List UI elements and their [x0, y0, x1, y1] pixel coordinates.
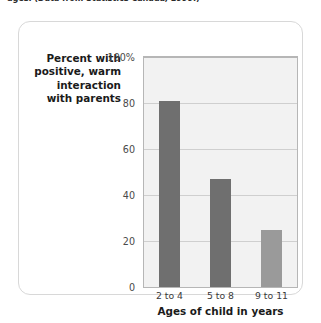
y-axis-tick-label: 80 [123, 98, 135, 109]
y-axis-tick-label: 60 [123, 144, 135, 155]
x-axis-tick-label: 5 to 8 [207, 290, 234, 301]
x-axis-tick-label: 9 to 11 [255, 290, 288, 301]
bar-chart-figure: Percent with positive, warm interaction … [19, 22, 304, 296]
y-axis-tick-label: 40 [123, 190, 135, 201]
figure-card: Percent with positive, warm interaction … [18, 21, 303, 295]
figure-caption-text: ages. (Data from Statistics Canada, 1999… [7, 0, 200, 3]
x-axis-tick-label: 2 to 4 [156, 290, 183, 301]
plot-inner [144, 57, 297, 287]
figure-caption-clip: ages. (Data from Statistics Canada, 1999… [0, 0, 321, 11]
plot-area [143, 56, 298, 288]
x-axis-title: Ages of child in years [143, 305, 298, 317]
gridline [144, 57, 297, 58]
y-axis-tick-labels: 100%806040200 [105, 56, 139, 288]
bar [159, 101, 180, 287]
y-axis-tick-label: 100% [108, 52, 135, 63]
bar [210, 179, 231, 287]
y-axis-tick-label: 0 [129, 282, 135, 293]
bar [261, 230, 282, 288]
x-axis-tick-labels: 2 to 45 to 89 to 11 [143, 290, 298, 304]
y-axis-tick-label: 20 [123, 236, 135, 247]
